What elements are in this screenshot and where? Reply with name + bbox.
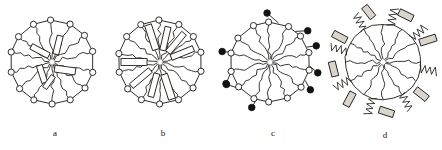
panel-b-bead-open xyxy=(138,97,144,103)
panel-d-rod xyxy=(331,30,348,43)
panel-a: a xyxy=(0,0,110,150)
panel-b-bead-open xyxy=(125,86,131,92)
panel-c-bead-open xyxy=(266,19,272,25)
panel-b-rod-body xyxy=(161,73,176,100)
panel-a-bead-open xyxy=(15,34,21,40)
panel-d-zigzag xyxy=(331,44,346,56)
panel-c-bead-open xyxy=(297,33,303,39)
panel-d-rod-body xyxy=(378,106,394,117)
figure-panel-group: a b c d xyxy=(0,0,442,150)
panel-c-caption: c xyxy=(218,128,328,138)
panel-c-bead-open xyxy=(235,35,241,41)
panel-c-bead-filled xyxy=(313,43,320,50)
panel-a-bead-open xyxy=(67,97,73,103)
panel-b-caption: b xyxy=(108,128,218,138)
panel-d-chain xyxy=(381,25,385,59)
panel-b-bead-open xyxy=(198,49,204,55)
panel-c-bead-open xyxy=(298,84,304,90)
panel-c-bead-open xyxy=(285,23,291,29)
panel-d-rod-body xyxy=(419,34,437,46)
panel-a-bead-open xyxy=(67,21,73,27)
panel-b-bead-open xyxy=(176,21,182,27)
panel-d-drawing xyxy=(330,0,442,120)
panel-c-bead-open xyxy=(236,84,242,90)
panel-d-chain xyxy=(351,64,380,81)
panel-b-rod-body xyxy=(145,24,160,51)
panel-b-bead-open xyxy=(138,22,144,28)
panel-c-ring xyxy=(231,22,309,102)
panel-d-chain xyxy=(386,64,415,81)
panel-c: c xyxy=(218,0,328,150)
panel-d-chain xyxy=(365,65,382,94)
panel-d-caption: d xyxy=(330,130,440,140)
panel-c-bead-filled xyxy=(307,87,314,94)
panel-b: b xyxy=(108,0,218,150)
panel-b-bead-open xyxy=(156,101,162,107)
panel-a-bead-open xyxy=(82,85,88,91)
panel-d-chain xyxy=(386,44,415,61)
panel-d-rod-body xyxy=(362,4,376,19)
panel-c-bead-open xyxy=(266,99,272,105)
panel-b-chain xyxy=(158,21,161,59)
panel-b-rod-body xyxy=(148,73,160,98)
panel-b-chain xyxy=(160,65,162,103)
panel-c-chain xyxy=(239,39,268,61)
panel-a-bead-open xyxy=(90,69,96,75)
panel-c-bead-open xyxy=(228,50,234,56)
panel-b-drawing xyxy=(108,0,218,120)
panel-c-drawing xyxy=(218,0,328,120)
panel-b-bead-open xyxy=(124,33,130,39)
panel-a-bead-open xyxy=(30,21,36,27)
panel-a-chain xyxy=(51,65,54,103)
panel-a-bead-open xyxy=(47,17,53,23)
panel-a-bead-open xyxy=(8,49,14,55)
panel-c-chain xyxy=(273,63,308,70)
panel-c-bead-open xyxy=(306,67,312,73)
panel-c-bead-filled xyxy=(219,48,226,55)
panel-c-bead-open xyxy=(228,68,234,74)
panel-a-caption: a xyxy=(0,128,110,138)
panel-d-chain xyxy=(346,60,380,64)
panel-b-bead-open xyxy=(175,97,181,103)
panel-c-chain xyxy=(232,63,267,71)
panel-c-chain xyxy=(272,64,300,87)
panel-c-chain xyxy=(273,53,308,61)
panel-d-rod xyxy=(378,106,394,117)
panel-d-rod xyxy=(343,91,356,108)
panel-a-bead-open xyxy=(8,69,14,75)
panel-c-chain xyxy=(254,65,268,98)
panel-c-chain xyxy=(271,65,287,97)
panel-b-bead-open xyxy=(116,69,122,75)
panel-a-bead-open xyxy=(90,48,96,54)
panel-d-zigzag xyxy=(364,99,377,114)
panel-a-chain xyxy=(55,52,92,62)
panel-a-bead-open xyxy=(31,97,37,103)
panel-d-chain xyxy=(385,65,402,94)
panel-a-bead-open xyxy=(49,101,55,107)
panel-c-bead-filled xyxy=(223,80,230,87)
panel-a-rod xyxy=(30,44,50,59)
panel-d-chain xyxy=(351,44,380,61)
panel-d-rod-body xyxy=(331,30,348,43)
panel-d-zigzag xyxy=(420,65,436,76)
panel-c-bead-filled xyxy=(304,27,311,34)
panel-b-rod xyxy=(121,59,147,66)
panel-a-rod-body xyxy=(30,44,50,59)
panel-c-bead-open xyxy=(251,96,257,102)
panel-d-chain xyxy=(386,60,420,63)
panel-d-rod-body xyxy=(343,91,356,108)
panel-b-bead-open xyxy=(156,17,162,23)
panel-c-bead-filled xyxy=(264,10,271,17)
panel-d-rod xyxy=(419,34,437,46)
panel-b-rod xyxy=(148,73,160,98)
panel-b-bead-open xyxy=(116,50,122,56)
panel-c-bead-open xyxy=(250,22,256,28)
panel-d-rod xyxy=(362,4,376,19)
panel-c-bead-filled xyxy=(248,104,255,111)
panel-d-rod-body xyxy=(398,9,415,22)
panel-d-rod xyxy=(398,9,415,22)
panel-a-bead-open xyxy=(81,32,87,38)
panel-c-chain xyxy=(267,65,271,101)
panel-b-rod xyxy=(161,73,176,100)
panel-b-bead-open xyxy=(198,68,204,74)
